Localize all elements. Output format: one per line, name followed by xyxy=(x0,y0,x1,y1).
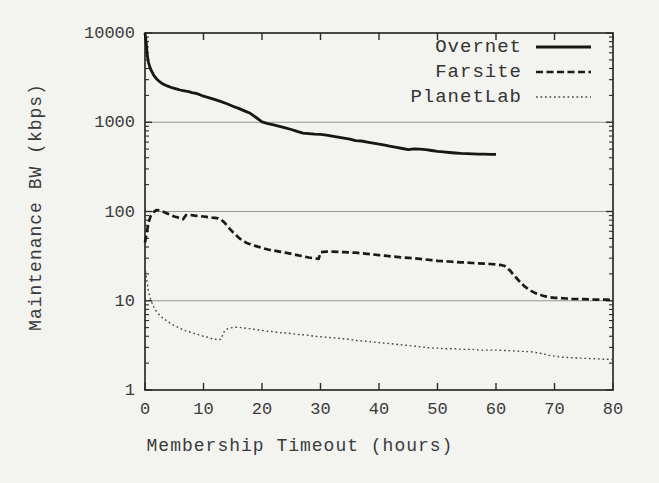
y-tick-label-1: 1 xyxy=(65,381,135,400)
series-line-farsite xyxy=(145,210,613,300)
series-line-planetlab xyxy=(145,267,613,360)
x-tick-label-0: 0 xyxy=(140,400,150,419)
x-axis-title: Membership Timeout (hours) xyxy=(147,436,454,456)
x-tick-label-40: 40 xyxy=(369,400,389,419)
y-axis-title: Maintenance BW (kbps) xyxy=(26,83,46,331)
legend-row-overnet: Overnet xyxy=(410,36,591,58)
legend-row-farsite: Farsite xyxy=(410,61,591,83)
legend-label-planetlab: PlanetLab xyxy=(410,86,522,108)
x-tick-label-80: 80 xyxy=(603,400,623,419)
legend-line-sample-dashed-icon xyxy=(536,67,591,77)
x-tick-label-20: 20 xyxy=(252,400,272,419)
x-tick-label-10: 10 xyxy=(193,400,213,419)
y-tick-label-1000: 1000 xyxy=(65,113,135,132)
y-tick-label-100: 100 xyxy=(65,202,135,221)
legend-line-sample-dotted-icon xyxy=(536,92,591,102)
legend: Overnet Farsite PlanetLab xyxy=(410,36,591,108)
x-tick-label-50: 50 xyxy=(427,400,447,419)
y-tick-label-10000: 10000 xyxy=(65,24,135,43)
x-tick-label-30: 30 xyxy=(310,400,330,419)
legend-line-sample-solid-icon xyxy=(536,42,591,52)
y-tick-label-10: 10 xyxy=(65,291,135,310)
x-tick-label-60: 60 xyxy=(486,400,506,419)
legend-label-farsite: Farsite xyxy=(435,61,522,83)
x-tick-label-70: 70 xyxy=(544,400,564,419)
legend-row-planetlab: PlanetLab xyxy=(410,86,591,108)
line-chart-figure: 11010010001000001020304050607080 Members… xyxy=(0,0,659,483)
legend-label-overnet: Overnet xyxy=(435,36,522,58)
